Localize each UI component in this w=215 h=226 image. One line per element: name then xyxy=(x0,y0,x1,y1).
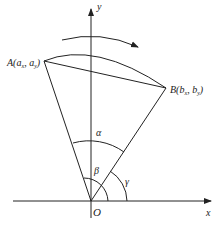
point-A-label: A(ax, ay) xyxy=(6,57,41,69)
angle-alpha-arc xyxy=(73,141,124,152)
y-axis-label: y xyxy=(96,1,102,12)
arc-AB xyxy=(44,55,166,88)
chord-AB xyxy=(44,61,166,88)
diagram-canvas: y x O A(ax, ay) B(bx, by) α β γ xyxy=(0,0,215,226)
segment-OA xyxy=(44,61,91,201)
angle-alpha-label: α xyxy=(96,127,102,138)
angle-gamma-label: γ xyxy=(125,176,130,187)
point-B-label: B(bx, by) xyxy=(170,84,204,96)
rotation-arrow-icon xyxy=(62,36,138,47)
origin-label: O xyxy=(93,206,101,218)
angle-beta-label: β xyxy=(93,165,99,176)
rotation-diagram: y x O A(ax, ay) B(bx, by) α β γ xyxy=(0,0,215,226)
x-axis-label: x xyxy=(205,207,211,218)
